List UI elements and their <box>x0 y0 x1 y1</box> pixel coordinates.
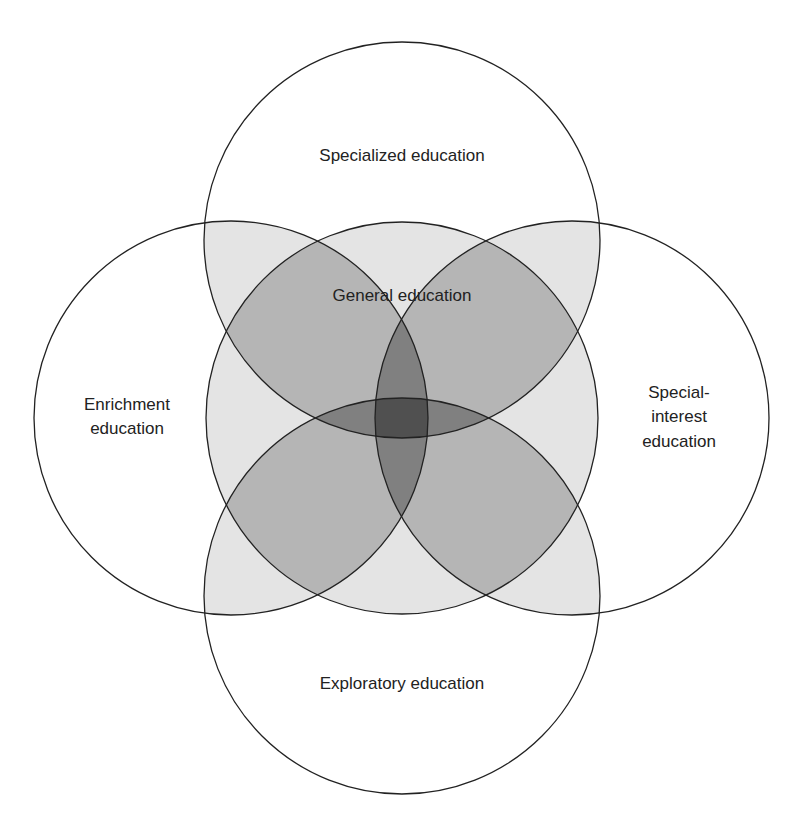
label-enrichment-education: Enrichment <box>84 395 170 414</box>
label-exploratory-education: Exploratory education <box>320 674 484 693</box>
label-enrichment-education: education <box>90 419 164 438</box>
label-special-interest-education: education <box>642 432 716 451</box>
label-special-interest-education: interest <box>651 407 707 426</box>
label-special-interest-education: Special- <box>648 383 709 402</box>
label-general-education: General education <box>333 286 472 305</box>
label-specialized-education: Specialized education <box>319 146 484 165</box>
venn-diagram: Specialized educationEnrichmenteducation… <box>0 0 802 824</box>
